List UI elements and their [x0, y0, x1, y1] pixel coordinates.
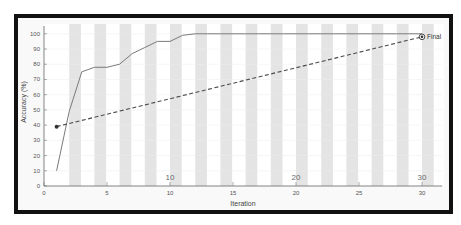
x-tick-label: 25: [356, 190, 363, 196]
in-plot-iteration-label: 30: [418, 173, 427, 182]
x-axis-label: Iteration: [230, 200, 255, 207]
y-tick-label: 40: [33, 122, 40, 128]
y-tick-label: 80: [33, 61, 40, 67]
in-plot-iteration-label: 20: [292, 173, 301, 182]
background-band: [397, 24, 409, 186]
y-tick-label: 20: [33, 153, 40, 159]
in-plot-iteration-label: 10: [166, 173, 175, 182]
y-tick-label: 30: [33, 137, 40, 143]
background-band: [296, 24, 308, 186]
x-tick-label: 30: [419, 190, 426, 196]
y-tick-label: 70: [33, 76, 40, 82]
background-band: [346, 24, 358, 186]
y-tick-label: 50: [33, 107, 40, 113]
x-tick-label: 15: [230, 190, 237, 196]
background-band: [120, 24, 132, 186]
chart-container: 0102030405060708090100 051015202530 1020…: [0, 0, 461, 225]
background-band: [422, 24, 434, 186]
background-band: [271, 24, 283, 186]
y-tick-label: 10: [33, 168, 40, 174]
final-marker-dot: [421, 36, 424, 39]
annotations: Final: [419, 33, 441, 40]
final-label: Final: [427, 33, 442, 40]
background-band: [220, 24, 232, 186]
background-band: [94, 24, 106, 186]
y-tick-label: 100: [30, 31, 41, 37]
background-band: [321, 24, 333, 186]
y-tick-label: 60: [33, 92, 40, 98]
y-tick-label: 90: [33, 46, 40, 52]
x-tick-label: 10: [167, 190, 174, 196]
background-bands: [69, 24, 434, 186]
start-point-marker: [55, 125, 59, 129]
x-tick-label: 20: [293, 190, 300, 196]
background-band: [246, 24, 258, 186]
y-axis-label: Accuracy (%): [20, 81, 28, 123]
background-band: [195, 24, 207, 186]
background-band: [170, 24, 182, 186]
accuracy-chart: 0102030405060708090100 051015202530 1020…: [0, 0, 461, 225]
